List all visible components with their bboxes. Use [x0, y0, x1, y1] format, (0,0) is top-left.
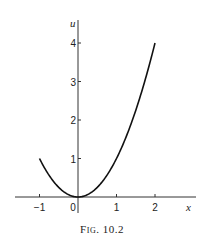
figure-caption: Fig. 10.2	[0, 223, 204, 235]
y-tick-label: 1	[70, 154, 76, 165]
chart-figure: −10121234 u x	[0, 0, 204, 241]
y-tick-label: 4	[70, 38, 76, 49]
axis-ticks	[40, 43, 156, 197]
x-axis-label: x	[185, 201, 191, 213]
data-curve	[40, 43, 156, 197]
tick-labels: −10121234	[34, 38, 158, 213]
x-tick-label: 1	[114, 202, 120, 213]
x-tick-label: 2	[152, 202, 158, 213]
y-tick-label: 3	[70, 77, 76, 88]
x-tick-label: −1	[34, 202, 46, 213]
x-tick-label: 0	[70, 202, 76, 213]
y-tick-label: 2	[70, 115, 76, 126]
y-axis-label: u	[70, 17, 76, 29]
